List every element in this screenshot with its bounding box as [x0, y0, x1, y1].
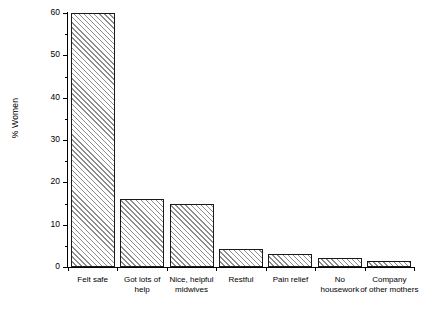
- x-axis-tick: [216, 267, 217, 271]
- bar: [219, 249, 263, 267]
- bar: [318, 258, 362, 267]
- y-axis-tick-label: 40: [51, 92, 60, 103]
- x-axis-category-label: Company of other mothers: [356, 275, 423, 294]
- bar: [120, 199, 164, 267]
- x-axis-tick: [68, 267, 69, 271]
- y-axis-minor-tick: [65, 119, 68, 120]
- bar: [268, 254, 312, 267]
- y-axis-minor-tick: [65, 161, 68, 162]
- y-axis-tick: 40: [63, 98, 68, 99]
- y-axis-minor-tick: [65, 246, 68, 247]
- bar-chart: % Women 0102030405060 Felt safeGot lots …: [0, 0, 437, 310]
- y-axis-label: % Women: [10, 78, 20, 158]
- y-axis-minor-tick: [65, 34, 68, 35]
- x-axis-tick: [315, 267, 316, 271]
- x-axis-tick: [266, 267, 267, 271]
- y-axis-tick-label: 20: [51, 176, 60, 187]
- y-axis-minor-tick: [65, 77, 68, 78]
- y-axis-tick-label: 10: [51, 219, 60, 230]
- y-axis-tick: 20: [63, 182, 68, 183]
- plot-area: 0102030405060: [68, 13, 414, 267]
- y-axis-minor-tick: [65, 204, 68, 205]
- bar: [71, 13, 115, 267]
- bar: [367, 261, 411, 267]
- x-axis-line: [67, 267, 415, 268]
- y-axis-tick-label: 0: [55, 261, 60, 272]
- y-axis-tick: 30: [63, 140, 68, 141]
- x-axis-tick: [365, 267, 366, 271]
- y-axis-tick-label: 50: [51, 49, 60, 60]
- bar: [170, 204, 214, 268]
- x-axis-tick: [167, 267, 168, 271]
- x-axis-tick: [414, 267, 415, 271]
- y-axis-tick: 50: [63, 55, 68, 56]
- y-axis-tick: 10: [63, 225, 68, 226]
- y-axis-tick: 60: [63, 13, 68, 14]
- y-axis-tick-label: 60: [51, 7, 60, 18]
- y-axis-tick-label: 30: [51, 134, 60, 145]
- x-axis-tick: [117, 267, 118, 271]
